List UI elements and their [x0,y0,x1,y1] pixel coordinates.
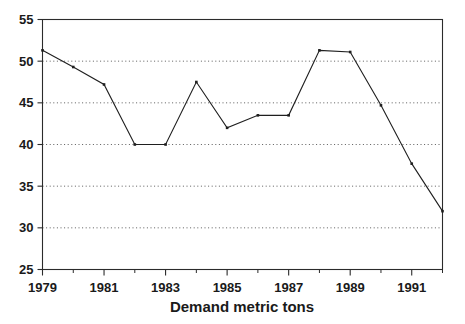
y-tick-label-50: 50 [19,54,33,69]
data-point-1992 [441,210,444,213]
data-point-1983 [164,143,167,146]
y-tick-label-40: 40 [19,137,33,152]
y-tick-label-25: 25 [19,262,33,277]
x-tick-label-1979: 1979 [28,280,57,295]
x-tick-label-1983: 1983 [151,280,180,295]
data-point-1981 [103,83,106,86]
data-point-1984 [195,81,198,84]
y-tick-label-30: 30 [19,220,33,235]
data-point-1980 [72,66,75,69]
data-point-1989 [349,51,352,54]
x-tick-label-1987: 1987 [274,280,303,295]
data-point-1986 [257,114,260,117]
data-point-1982 [134,143,137,146]
x-axis-title: Demand metric tons [170,298,314,315]
y-tick-label-35: 35 [19,179,33,194]
x-tick-label-1981: 1981 [90,280,119,295]
x-tick-label-1991: 1991 [397,280,426,295]
data-point-1991 [410,162,413,165]
x-tick-label-1985: 1985 [213,280,242,295]
x-tick-label-1989: 1989 [336,280,365,295]
y-tick-label-45: 45 [19,95,33,110]
data-point-1990 [380,104,383,107]
data-point-1979 [41,49,44,52]
data-point-1988 [318,49,321,52]
data-point-1985 [226,127,229,130]
line-chart: 25303540455055 1979198119831985198719891… [0,0,465,324]
chart-container: 25303540455055 1979198119831985198719891… [0,0,465,324]
data-point-1987 [287,114,290,117]
y-tick-label-55: 55 [19,12,33,27]
chart-background [0,0,465,324]
